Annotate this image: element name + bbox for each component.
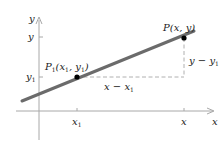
y-axis-label: y <box>28 13 35 24</box>
point-p1 <box>74 74 79 79</box>
run-label: x − x1 <box>104 81 134 93</box>
point-p <box>181 35 186 40</box>
point-p1-label: P1(x1, y1) <box>44 61 89 73</box>
tick-label-x1: x1 <box>72 116 81 128</box>
point-p-label: P(x, y) <box>162 22 195 33</box>
tick-label-y1: y1 <box>25 71 35 83</box>
y-axis <box>36 17 42 140</box>
coordinate-diagram: y x y y1 x1 x P1(x1, y1) P(x, y) y − y1 … <box>0 0 224 144</box>
x-axis-label: x <box>212 116 218 127</box>
tick-label-x: x <box>181 116 187 127</box>
rise-label: y − y1 <box>188 55 219 67</box>
tick-label-y: y <box>27 31 34 42</box>
